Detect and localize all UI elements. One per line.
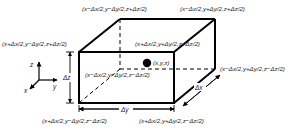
corner-label-top-front-right: (x+Δx/2,y+Δy/2,z+Δz/2) [135,40,200,47]
diagram-svg: Δz Δy Δx z y x (x−Δx/2,y−Δy/2,z+Δz/2) (x… [0,0,301,131]
z-axis-label: z [29,61,34,68]
corner-label-bottom-front-right: (x+Δx/2,y+Δy/2,z−Δz/2) [139,117,204,124]
edge-top-left-diagonal [79,19,120,52]
center-point-label: (x,y,z) [153,59,169,66]
dz-label: Δz [62,74,71,81]
dy-label: Δy [120,106,129,114]
corner-label-top-back-left: (x−Δx/2,y−Δy/2,z+Δz/2) [82,5,147,12]
x-axis [30,80,39,89]
corner-label-bottom-front-left: (x+Δx/2,y−Δy/2,z−Δz/2) [42,117,107,124]
y-axis-label: y [52,83,57,91]
dx-label: Δx [194,84,203,91]
corner-label-bottom-back-left: (x−Δx/2,y−Δy/2,z−Δz/2) [85,71,150,78]
x-axis-label: x [23,87,28,94]
corner-label-bottom-back-right: (x−Δx/2,y+Δy/2,z−Δz/2) [220,65,285,72]
leader-line [141,26,174,52]
control-volume-diagram: Δz Δy Δx z y x (x−Δx/2,y−Δy/2,z+Δz/2) (x… [0,0,301,131]
corner-label-top-back-right: (x−Δx/2,y+Δy/2,z+Δz/2) [180,5,245,12]
center-point-dot [143,59,151,67]
edge-top-right-diagonal [174,19,215,52]
corner-label-top-front-left: (x+Δx/2,y−Δy/2,z+Δz/2) [2,40,67,47]
